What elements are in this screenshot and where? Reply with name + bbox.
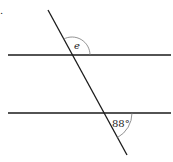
angle-e-label: e: [74, 40, 80, 51]
transversal-line: [48, 10, 127, 155]
corner-mark: .: [0, 5, 3, 16]
angle-88-label: 88°: [112, 118, 130, 129]
geometry-diagram: . e 88°: [0, 0, 173, 162]
